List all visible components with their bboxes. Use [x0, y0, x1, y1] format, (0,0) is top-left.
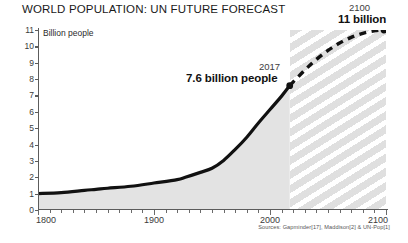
y-tick-label-4: 4	[12, 140, 34, 150]
y-tick-mark-3	[35, 161, 39, 162]
y-tick-mark-11	[35, 30, 39, 31]
y-tick-label-11: 11	[12, 25, 34, 35]
x-tick-mark-2090	[374, 210, 375, 213]
x-tick-mark-1840	[84, 210, 85, 213]
x-tick-mark-1940	[200, 210, 201, 213]
x-tick-label-1800: 1800	[36, 215, 56, 225]
y-tick-label-0: 0	[12, 205, 34, 215]
y-tick-mark-1	[35, 194, 39, 195]
y-tick-label-3: 3	[12, 156, 34, 166]
world-population-forecast-chart: WORLD POPULATION: UN FUTURE FORECAST 012…	[0, 0, 408, 243]
y-tick-mark-6	[35, 112, 39, 113]
y-tick-mark-2	[35, 177, 39, 178]
y-tick-label-7: 7	[12, 90, 34, 100]
x-tick-mark-2060	[340, 210, 341, 213]
x-tick-mark-1980	[247, 210, 248, 213]
y-tick-mark-10	[35, 46, 39, 47]
x-tick-mark-2000	[270, 210, 271, 215]
source-note: Sources: Gapminder[17], Maddison[2] & UN…	[258, 224, 390, 230]
x-tick-mark-1900	[154, 210, 155, 215]
annotation-2017-value: 7.6 billion people	[186, 72, 278, 84]
x-tick-mark-2080	[363, 210, 364, 213]
x-tick-mark-1850	[96, 210, 97, 213]
x-tick-mark-2040	[316, 210, 317, 213]
annotation-2017-year: 2017	[259, 61, 280, 72]
x-tick-mark-1970	[235, 210, 236, 213]
y-axis-line	[38, 28, 39, 210]
x-tick-mark-1870	[119, 210, 120, 213]
y-tick-label-8: 8	[12, 74, 34, 84]
x-tick-mark-1950	[212, 210, 213, 213]
datapoint-2100-marker	[381, 27, 388, 34]
y-axis-title: Billion people	[43, 28, 94, 38]
x-tick-label-1900: 1900	[144, 215, 164, 225]
x-tick-mark-1820	[61, 210, 62, 213]
y-tick-label-1: 1	[12, 189, 34, 199]
y-tick-mark-7	[35, 95, 39, 96]
y-tick-label-5: 5	[12, 123, 34, 133]
plot-area	[38, 30, 386, 210]
y-tick-mark-4	[35, 145, 39, 146]
annotation-2100-value: 11 billion	[338, 13, 386, 25]
x-tick-mark-1860	[108, 210, 109, 213]
x-tick-mark-1990	[258, 210, 259, 213]
x-tick-mark-1880	[131, 210, 132, 213]
x-tick-mark-1920	[177, 210, 178, 213]
x-tick-mark-1910	[166, 210, 167, 213]
y-tick-label-2: 2	[12, 172, 34, 182]
x-tick-mark-1960	[224, 210, 225, 213]
y-tick-mark-8	[35, 79, 39, 80]
x-tick-mark-2020	[293, 210, 294, 213]
x-tick-mark-2070	[351, 210, 352, 213]
x-tick-mark-1930	[189, 210, 190, 213]
y-tick-label-10: 10	[12, 41, 34, 51]
y-tick-mark-9	[35, 63, 39, 64]
y-axis-tick-labels: 01234567891011	[10, 0, 34, 243]
y-tick-label-6: 6	[12, 107, 34, 117]
y-tick-label-9: 9	[12, 58, 34, 68]
annotation-2100-year: 2100	[349, 2, 370, 13]
y-tick-mark-5	[35, 128, 39, 129]
x-tick-mark-1800	[38, 210, 39, 215]
x-tick-mark-1890	[142, 210, 143, 213]
x-tick-mark-2050	[328, 210, 329, 213]
forecast-population-line	[290, 30, 386, 86]
x-tick-mark-2030	[305, 210, 306, 213]
datapoint-2017-marker	[286, 82, 293, 89]
chart-title: WORLD POPULATION: UN FUTURE FORECAST	[22, 3, 285, 15]
chart-svg	[38, 30, 386, 210]
x-tick-mark-1810	[50, 210, 51, 213]
x-tick-mark-1830	[73, 210, 74, 213]
x-tick-mark-2100	[386, 210, 387, 215]
x-tick-mark-2010	[282, 210, 283, 213]
